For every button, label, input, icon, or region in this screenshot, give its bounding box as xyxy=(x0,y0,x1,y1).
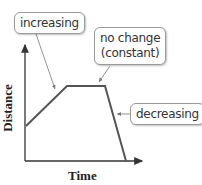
pointer-increasing xyxy=(36,34,55,89)
y-axis-title: Distance xyxy=(0,78,16,138)
pointer-constant xyxy=(99,66,110,82)
label-no-change-line1: no change xyxy=(100,31,160,46)
label-increasing: increasing xyxy=(14,12,85,34)
label-decreasing-text: decreasing xyxy=(136,107,199,121)
label-no-change: no change (constant) xyxy=(94,27,166,65)
label-no-change-line2: (constant) xyxy=(100,46,160,61)
distance-time-line xyxy=(26,86,126,161)
label-increasing-text: increasing xyxy=(20,16,79,30)
label-decreasing: decreasing xyxy=(130,103,202,125)
x-axis-title: Time xyxy=(68,168,97,184)
